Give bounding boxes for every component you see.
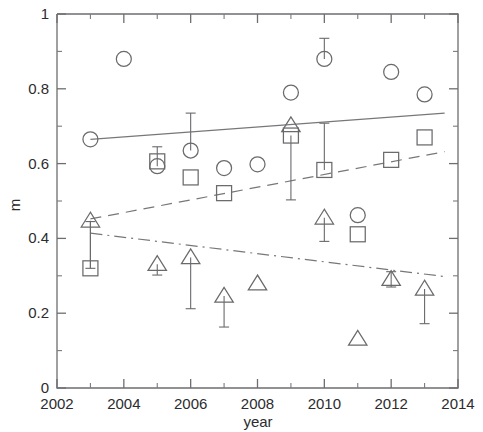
data-marker-square: [183, 170, 198, 185]
data-marker-circle: [384, 64, 399, 79]
y-tick-label: 0.8: [28, 80, 49, 97]
data-markers-group: [81, 51, 434, 345]
y-tick-labels: 00.20.40.60.81: [28, 5, 49, 396]
data-marker-square: [417, 130, 432, 145]
data-marker-circle: [350, 208, 365, 223]
data-marker-square: [350, 227, 365, 242]
x-tick-label: 2006: [174, 395, 207, 412]
y-tick-label: 0.6: [28, 155, 49, 172]
data-marker-circle: [417, 87, 432, 102]
x-axis-title: year: [243, 413, 272, 430]
y-tick-label: 0: [41, 379, 49, 396]
data-marker-triangle: [248, 275, 266, 290]
data-marker-circle: [217, 161, 232, 176]
x-tick-label: 2010: [308, 395, 341, 412]
x-tick-label: 2002: [40, 395, 73, 412]
trend-lines-group: [90, 113, 444, 276]
x-tick-labels: 2002200420062008201020122014: [40, 395, 474, 412]
y-tick-label: 0.4: [28, 229, 49, 246]
x-tick-label: 2014: [441, 395, 474, 412]
x-tick-label: 2012: [374, 395, 407, 412]
y-tick-label: 1: [41, 5, 49, 22]
scatter-plot-figure: 2002200420062008201020122014 00.20.40.60…: [0, 0, 483, 432]
plot-canvas: 2002200420062008201020122014 00.20.40.60…: [0, 0, 483, 432]
x-tick-label: 2004: [107, 395, 140, 412]
data-marker-triangle: [349, 330, 367, 345]
x-tick-label: 2008: [241, 395, 274, 412]
error-bars-group: [85, 38, 429, 327]
solid-trend: [90, 113, 444, 139]
data-marker-circle: [283, 85, 298, 100]
y-tick-label: 0.2: [28, 304, 49, 321]
dashed-trend: [90, 152, 444, 219]
data-marker-square: [384, 152, 399, 167]
data-marker-circle: [116, 51, 131, 66]
y-axis-title: m: [6, 199, 23, 212]
data-marker-circle: [250, 157, 265, 172]
